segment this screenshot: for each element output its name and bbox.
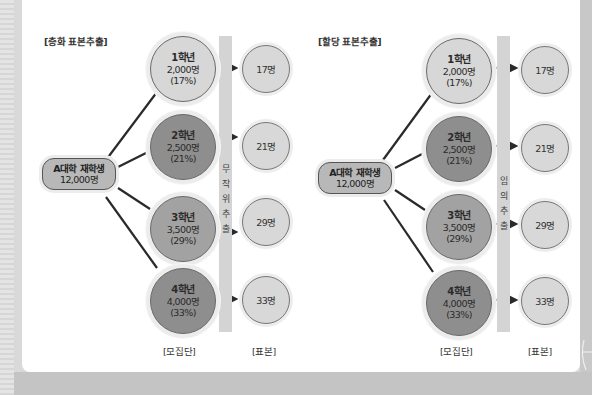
right-sample-label: [표본] xyxy=(528,344,552,358)
bar-char: 추 xyxy=(500,204,508,219)
right-stratum-grade2: 2학년 2,500명 (21%) xyxy=(426,116,492,182)
right-sample-grade2: 21명 xyxy=(521,124,569,172)
right-root-node: A대학 재학생 12,000명 xyxy=(318,162,392,194)
left-diagram-title: [층화 표본추출] xyxy=(44,34,107,48)
right-arbitrary-sampling-bar: 임 의 추 출 xyxy=(497,36,510,332)
root-label: A대학 재학생 xyxy=(53,163,104,174)
left-population-label: [모집단] xyxy=(163,344,195,358)
bar-char: 임 xyxy=(500,174,508,189)
right-population-label: [모집단] xyxy=(440,344,472,358)
bar-char: 추 xyxy=(222,207,230,222)
left-stratum-grade1: 1학년 2,000명 (17%) xyxy=(150,36,216,102)
bar-char: 무 xyxy=(222,162,230,177)
bar-char: 출 xyxy=(500,219,508,234)
right-stratum-grade1: 1학년 2,000명 (17%) xyxy=(426,38,492,104)
left-sample-grade1: 17명 xyxy=(242,45,290,93)
root-label: A대학 재학생 xyxy=(329,167,380,178)
right-sample-grade3: 29명 xyxy=(521,201,569,249)
right-sample-grade1: 17명 xyxy=(521,46,569,94)
left-sample-grade2: 21명 xyxy=(242,122,290,170)
bar-char: 의 xyxy=(500,189,508,204)
left-stratum-grade3: 3학년 3,500명 (29%) xyxy=(150,196,216,262)
right-sample-grade4: 33명 xyxy=(521,277,569,325)
left-sample-label: [표본] xyxy=(252,344,276,358)
right-stratum-grade4: 4학년 4,000명 (33%) xyxy=(426,270,492,336)
left-stratum-grade2: 2학년 2,500명 (21%) xyxy=(150,114,216,180)
root-count: 12,000명 xyxy=(60,174,98,185)
left-sample-grade3: 29명 xyxy=(242,198,290,246)
left-random-sampling-bar: 무 작 위 추 출 xyxy=(219,36,232,332)
right-stratum-grade3: 3학년 3,500명 (29%) xyxy=(426,194,492,260)
bar-char: 작 xyxy=(222,177,230,192)
left-sample-grade4: 33명 xyxy=(242,276,290,324)
root-count: 12,000명 xyxy=(336,178,374,189)
bar-char: 위 xyxy=(222,192,230,207)
right-diagram-title: [할당 표본추출] xyxy=(318,34,381,48)
bar-char: 출 xyxy=(222,222,230,237)
left-stratum-grade4: 4학년 4,000명 (33%) xyxy=(150,268,216,334)
left-root-node: A대학 재학생 12,000명 xyxy=(42,158,116,190)
